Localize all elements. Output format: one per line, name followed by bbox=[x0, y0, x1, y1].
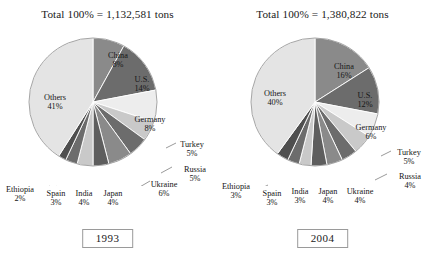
pie-label-pct-others: 40% bbox=[264, 98, 286, 107]
pie-label-pct-japan: 4% bbox=[104, 198, 123, 207]
pie-label-name-spain: Spain bbox=[263, 189, 282, 198]
pie-label-name-germany: Germany bbox=[135, 115, 166, 124]
leader-line-turkey bbox=[166, 143, 176, 148]
pie-label-pct-germany: 8% bbox=[135, 124, 166, 133]
pie-label-name-ethiopia: Ethiopia bbox=[6, 185, 34, 194]
pie-label-turkey: Turkey5% bbox=[180, 140, 204, 159]
pie-label-pct-germany: 6% bbox=[356, 132, 387, 141]
pie-label-pct-russia: 4% bbox=[399, 181, 421, 190]
pie-label-japan: Japan4% bbox=[319, 187, 338, 206]
pie-label-germany: Germany8% bbox=[135, 115, 166, 134]
pie-label-name-turkey: Turkey bbox=[397, 148, 421, 157]
pie-label-u-s: U.S.14% bbox=[134, 75, 149, 94]
pie-label-name-others: Others bbox=[44, 93, 66, 102]
pie-label-pct-turkey: 5% bbox=[180, 149, 204, 158]
pie-label-pct-u-s: 12% bbox=[357, 100, 372, 109]
pie-label-pct-china: 8% bbox=[108, 60, 128, 69]
pie-label-india: India4% bbox=[75, 189, 92, 208]
pie-label-spain: Spain3% bbox=[263, 189, 282, 208]
pie-label-name-russia: Russia bbox=[399, 172, 421, 181]
pie-label-pct-india: 4% bbox=[75, 198, 92, 207]
pie-label-china: China16% bbox=[334, 62, 354, 81]
pie-label-pct-ethiopia: 2% bbox=[6, 194, 34, 203]
pie-area-2004: China16%U.S.12%Germany6%Turkey5%Russia4%… bbox=[215, 26, 430, 186]
pie-label-name-russia: Russia bbox=[184, 165, 206, 174]
pie-label-pct-ethiopia: 3% bbox=[222, 191, 250, 200]
pie-label-ukraine: Ukraine6% bbox=[151, 180, 178, 199]
pie-label-u-s: U.S.12% bbox=[357, 91, 372, 110]
chart-title-1993: Total 100% = 1,132,581 tons bbox=[0, 8, 215, 20]
pie-label-ethiopia: Ethiopia2% bbox=[6, 185, 34, 204]
pie-label-others: Others40% bbox=[264, 89, 286, 108]
pie-label-name-china: China bbox=[334, 62, 354, 71]
pie-label-name-china: China bbox=[108, 51, 128, 60]
year-box-1993: 1993 bbox=[82, 229, 134, 248]
pie-label-japan: Japan4% bbox=[104, 189, 123, 208]
pie-label-name-spain: Spain bbox=[47, 189, 66, 198]
pie-chart-panel-1993: Total 100% = 1,132,581 tons China8%U.S.1… bbox=[0, 0, 215, 260]
pie-label-pct-india: 3% bbox=[291, 196, 308, 205]
chart-title-2004: Total 100% = 1,380,822 tons bbox=[215, 8, 430, 20]
pie-label-russia: Russia5% bbox=[184, 165, 206, 184]
pie-label-name-turkey: Turkey bbox=[180, 140, 204, 149]
pie-area-1993: China8%U.S.14%Germany8%Turkey5%Russia5%U… bbox=[0, 26, 215, 186]
pie-label-pct-china: 16% bbox=[334, 71, 354, 80]
pie-label-name-others: Others bbox=[264, 89, 286, 98]
pie-label-name-u-s: U.S. bbox=[358, 91, 373, 100]
pie-label-pct-ukraine: 6% bbox=[151, 189, 178, 198]
pie-label-india: India3% bbox=[291, 187, 308, 206]
year-box-2004: 2004 bbox=[297, 229, 349, 248]
pie-label-russia: Russia4% bbox=[399, 172, 421, 191]
pie-label-others: Others41% bbox=[44, 93, 66, 112]
pie-label-turkey: Turkey5% bbox=[397, 148, 421, 167]
pie-label-name-ukraine: Ukraine bbox=[151, 180, 178, 189]
leader-line-russia bbox=[375, 174, 387, 180]
pie-label-spain: Spain3% bbox=[47, 189, 66, 208]
pie-label-name-ethiopia: Ethiopia bbox=[222, 182, 250, 191]
pie-label-name-japan: Japan bbox=[319, 187, 338, 196]
leader-line-ethiopia bbox=[258, 185, 268, 186]
pie-label-name-japan: Japan bbox=[104, 189, 123, 198]
pie-label-pct-spain: 3% bbox=[263, 198, 282, 207]
pie-label-pct-u-s: 14% bbox=[134, 84, 149, 93]
pie-chart-panel-2004: Total 100% = 1,380,822 tons China16%U.S.… bbox=[215, 0, 430, 260]
pie-label-name-u-s: U.S. bbox=[135, 75, 150, 84]
pie-label-pct-others: 41% bbox=[44, 102, 66, 111]
pie-label-pct-turkey: 5% bbox=[397, 157, 421, 166]
pie-label-pct-japan: 4% bbox=[319, 196, 338, 205]
pie-label-germany: Germany6% bbox=[356, 123, 387, 142]
pie-label-name-india: India bbox=[291, 187, 308, 196]
pie-label-ukraine: Ukraine4% bbox=[347, 187, 374, 206]
pie-label-name-germany: Germany bbox=[356, 123, 387, 132]
leader-line-turkey bbox=[381, 151, 391, 156]
pie-label-china: China8% bbox=[108, 51, 128, 70]
leader-line-ukraine bbox=[138, 181, 150, 186]
pie-label-ethiopia: Ethiopia3% bbox=[222, 182, 250, 201]
pie-label-name-ukraine: Ukraine bbox=[347, 187, 374, 196]
leader-line-russia bbox=[161, 167, 172, 173]
pie-label-pct-ukraine: 4% bbox=[347, 196, 374, 205]
pie-label-pct-spain: 3% bbox=[47, 198, 66, 207]
pie-label-name-india: India bbox=[75, 189, 92, 198]
pie-label-pct-russia: 5% bbox=[184, 174, 206, 183]
